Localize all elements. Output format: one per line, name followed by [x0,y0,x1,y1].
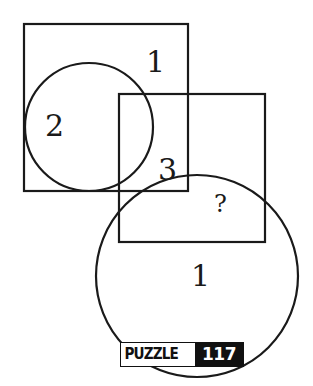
center-square [119,94,265,242]
puzzle-number: 117 [195,343,243,366]
puzzle-label: PUZZLE [121,343,184,366]
region-label-small-circle: 2 [45,108,64,143]
region-label-overlap: 3 [158,152,177,187]
venn-puzzle-diagram: 1 2 3 ? 1 [0,0,313,386]
puzzle-badge: PUZZLE 117 [120,342,244,367]
region-label-top-square: 1 [146,44,165,79]
region-label-unknown: ? [214,190,227,218]
region-label-large-circle: 1 [191,258,210,293]
